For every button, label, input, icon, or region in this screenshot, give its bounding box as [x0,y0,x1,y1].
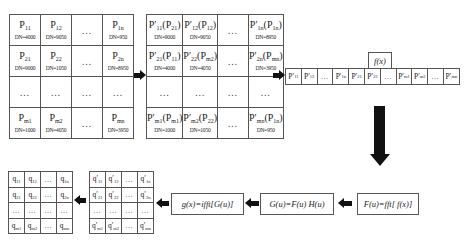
pixel-label: … [72,87,102,98]
grid-cell: … [122,172,138,188]
pixel-label: P′11(P21) [147,19,182,34]
dn-value: DN=8950 [103,65,133,72]
pixel-label: P1n [103,19,133,34]
grid-scrambled-pixels: P′11(P21)DN=9000P′12(P12)DN=9050…P′1n(P1… [146,14,284,139]
grid-cell: P′m2(P22)DN=1050 [183,108,218,139]
pixel-label: Pmn [103,112,133,127]
dn-value: DN=1050 [183,127,217,134]
grid-row: ………… [147,77,284,108]
pixel-label: … [218,118,248,129]
grid-cell: … [41,218,57,234]
sequence-cell: P′12 [302,69,318,84]
grid-cell: … [106,203,122,219]
grid-restored-pixels: q11q12…q1nq21q22…q2n…………qm1qm2…qmn [8,171,73,234]
pixel-label: P12 [41,19,71,34]
sequence-cell: P′22 [365,69,381,84]
grid-original-pixels: P11DN=4000P12DN=9050…P1nDN=950P21DN=9000… [9,14,134,139]
pixel-label: … [218,87,248,98]
pixel-sequence-row: P′11P′12…P′1nP′21P′22…P′m1P′m2…P′mn [285,68,460,85]
grid-row: P11DN=4000P12DN=9050…P1nDN=950 [10,15,134,46]
sequence-cell: … [318,69,334,84]
dn-value: DN=4000 [10,34,40,41]
grid-cell: q′1n [138,172,154,188]
pixel-label: … [218,56,248,67]
grid-cell: q11 [9,172,25,188]
dn-value: DN=4000 [147,65,182,72]
pixel-label: P′2n(Pmn) [249,50,283,65]
grid-row: P′11(P21)DN=9000P′12(P12)DN=9050…P′1n(P1… [147,15,284,46]
grid-cell: P′11(P21)DN=9000 [147,15,183,46]
fft-formula: F(u)=fft[ f(x)] [364,199,412,209]
grid-cell: q′22 [106,187,122,203]
pixel-label: P′12(P12) [183,19,217,34]
grid-cell: q′m2 [106,218,122,234]
grid-cell: P′mn(P1n)DN=950 [249,108,284,139]
dn-value: DN=1000 [10,127,40,134]
grid-cell: q′mn [138,218,154,234]
grid-row: q′m1q′m2…q′mn [90,218,154,234]
fft-formula-box: F(u)=fft[ f(x)] [357,193,419,215]
grid-row: ………… [9,203,73,219]
pixel-label: … [72,56,102,67]
grid-cell: … [218,46,249,77]
ifft-formula: g(x)=ifft[G(u)] [182,199,234,209]
grid-cell: q′2n [138,187,154,203]
pixel-label: P′21(P11) [147,50,182,65]
grid-cell: … [122,203,138,219]
pixel-label: Pm2 [41,112,71,127]
filter-formula-box: G(u)=F(u) H(u) [260,193,334,215]
dn-value: DN=3950 [103,127,133,134]
dn-value: DN=1000 [147,127,182,134]
grid-cell: P21DN=9000 [10,46,41,77]
sequence-cell: P′mn [444,69,459,84]
dn-value: DN=9000 [147,34,182,41]
grid-cell: … [10,77,41,108]
pixel-label: … [183,87,217,98]
grid-row: qm1qm2…qmn [9,218,73,234]
grid-cell: q′m1 [90,218,106,234]
pixel-label: … [72,25,102,36]
pixel-label: P22 [41,50,71,65]
grid-cell: … [218,77,249,108]
filter-formula: G(u)=F(u) H(u) [269,199,324,209]
grid-cell: … [72,108,103,139]
grid-row: P21DN=9000P22DN=1050…P2nDN=8950 [10,46,134,77]
grid-cell: qm1 [9,218,25,234]
grid-cell: P22DN=1050 [41,46,72,77]
grid-row: Pm1DN=1000Pm2DN=4050…PmnDN=3950 [10,108,134,139]
grid-row: q′11q′12…q′1n [90,172,154,188]
pixel-label: … [218,25,248,36]
grid-cell: … [25,203,41,219]
grid-cell: P′12(P12)DN=9050 [183,15,218,46]
pixel-label: P21 [10,50,40,65]
grid-cell: Pm2DN=4050 [41,108,72,139]
grid-cell: q1n [57,172,73,188]
grid-cell: q′11 [90,172,106,188]
grid-cell: … [72,46,103,77]
grid-cell: qm2 [25,218,41,234]
sequence-cell: P′11 [286,69,302,84]
grid-cell: Pm1DN=1000 [10,108,41,139]
grid-cell: PmnDN=3950 [103,108,134,139]
sequence-cell: P′1n [333,69,349,84]
grid-cell: P′1n(P1n)DN=8950 [249,15,284,46]
pixel-label: … [72,118,102,129]
grid-cell: q22 [25,187,41,203]
grid-row: q11q12…q1n [9,172,73,188]
arrow-down-icon [370,106,390,166]
grid-cell: … [41,203,57,219]
dn-value: DN=950 [249,127,283,134]
grid-cell: … [218,108,249,139]
grid-cell: … [41,172,57,188]
dn-value: DN=9000 [10,65,40,72]
pixel-label: P′1n(P1n) [249,19,283,34]
dn-value: DN=9050 [41,34,71,41]
pixel-label: P′m2(P22) [183,112,217,127]
sequence-cell: … [428,69,444,84]
grid-cell: q′12 [106,172,122,188]
pixel-label: P2n [103,50,133,65]
grid-row: P′21(P11)DN=4000P′22(Pm2)DN=4050…P′2n(Pm… [147,46,284,77]
grid-cell: … [57,203,73,219]
grid-cell: P12DN=9050 [41,15,72,46]
grid-cell: q′21 [90,187,106,203]
